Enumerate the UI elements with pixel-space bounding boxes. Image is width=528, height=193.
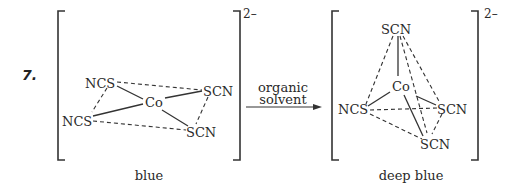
problem-number: 7. bbox=[22, 67, 37, 83]
ligand-scn-right: SCN bbox=[203, 84, 233, 99]
bond bbox=[93, 104, 143, 116]
bond bbox=[404, 95, 423, 136]
bond bbox=[117, 86, 143, 99]
product-complex: 2– SCN NCS SCN SCN Co deep blue bbox=[332, 7, 498, 183]
bond bbox=[368, 92, 390, 106]
bond bbox=[165, 91, 202, 98]
ligand-ncs-left: NCS bbox=[62, 114, 92, 129]
left-bracket-close bbox=[233, 11, 240, 160]
ligand-scn-bottom: SCN bbox=[186, 125, 216, 140]
reaction-arrow: organic solvent bbox=[246, 80, 322, 110]
edge-dashed bbox=[196, 97, 208, 124]
edge-dashed bbox=[93, 121, 186, 130]
product-color-label: deep blue bbox=[379, 168, 444, 183]
reaction-diagram: 7. 2– NCS SCN Co NCS SCN blue organic so… bbox=[0, 0, 528, 193]
reactant-color-label: blue bbox=[135, 168, 164, 183]
ligand-scn-bottom: SCN bbox=[420, 137, 450, 152]
edge-dashed bbox=[370, 108, 437, 110]
left-bracket-open bbox=[58, 11, 65, 160]
arrow-label-line2: solvent bbox=[259, 92, 307, 107]
reactant-complex: 2– NCS SCN Co NCS SCN blue bbox=[58, 7, 257, 183]
metal-center: Co bbox=[392, 79, 410, 94]
reactant-charge: 2– bbox=[243, 7, 257, 21]
edge-dashed bbox=[92, 88, 107, 112]
edge-dashed bbox=[432, 114, 442, 134]
ligand-scn-top: SCN bbox=[381, 22, 411, 37]
ligand-ncs-left: NCS bbox=[338, 102, 368, 117]
right-bracket-close bbox=[471, 11, 478, 160]
edge-dashed bbox=[366, 36, 393, 104]
ligand-scn-right: SCN bbox=[437, 102, 467, 117]
product-charge: 2– bbox=[484, 7, 498, 21]
metal-center: Co bbox=[145, 95, 163, 110]
right-bracket-open bbox=[332, 11, 339, 160]
ligand-ncs-top: NCS bbox=[85, 76, 115, 91]
arrow-head-icon bbox=[313, 104, 322, 110]
edge-dashed bbox=[117, 82, 202, 90]
bond bbox=[162, 110, 188, 126]
